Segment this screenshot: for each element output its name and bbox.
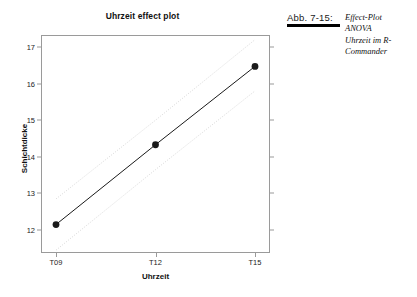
y-tick-label: 12 [0,226,41,235]
plot-frame [41,35,270,253]
y-tick-mark-right [270,83,274,84]
caption-underline-rule [287,24,340,27]
effect-plot-figure: Uhrzeit effect plot Schichtdicke 1213141… [0,0,285,297]
chart-title: Uhrzeit effect plot [0,11,285,21]
x-tick-mark [156,253,157,257]
y-tick-mark-right [270,156,274,157]
plot-svg [42,36,269,252]
data-point-marker [152,141,159,148]
caption-line: Uhrzeit im R- [345,35,415,46]
confidence-band-line [56,91,255,250]
x-tick-label: T12 [149,258,162,267]
y-tick-mark-right [270,193,274,194]
y-tick-mark-right [270,230,274,231]
x-tick-mark [255,253,256,257]
data-point-marker [252,63,259,70]
data-point-marker [53,221,60,228]
x-axis-label: Uhrzeit [41,272,270,281]
plot-area [42,36,269,252]
y-tick-label: 15 [0,116,41,125]
caption-body: Effect-PlotANOVAUhrzeit im R-Commander [345,12,415,58]
x-tick-label: T15 [249,258,262,267]
y-tick-mark-right [270,46,274,47]
caption-number-block: Abb. 7-15: [287,12,343,27]
caption-line: Commander [345,46,415,57]
y-tick-label: 14 [0,152,41,161]
confidence-band-line [56,40,255,199]
caption-line: ANOVA [345,23,415,34]
caption-number: Abb. 7-15: [287,12,343,23]
y-tick-mark-right [270,120,274,121]
y-tick-label: 16 [0,79,41,88]
x-tick-label: T09 [50,258,63,267]
y-tick-label: 17 [0,42,41,51]
y-tick-label: 13 [0,189,41,198]
x-tick-mark [56,253,57,257]
caption-line: Effect-Plot [345,12,415,23]
